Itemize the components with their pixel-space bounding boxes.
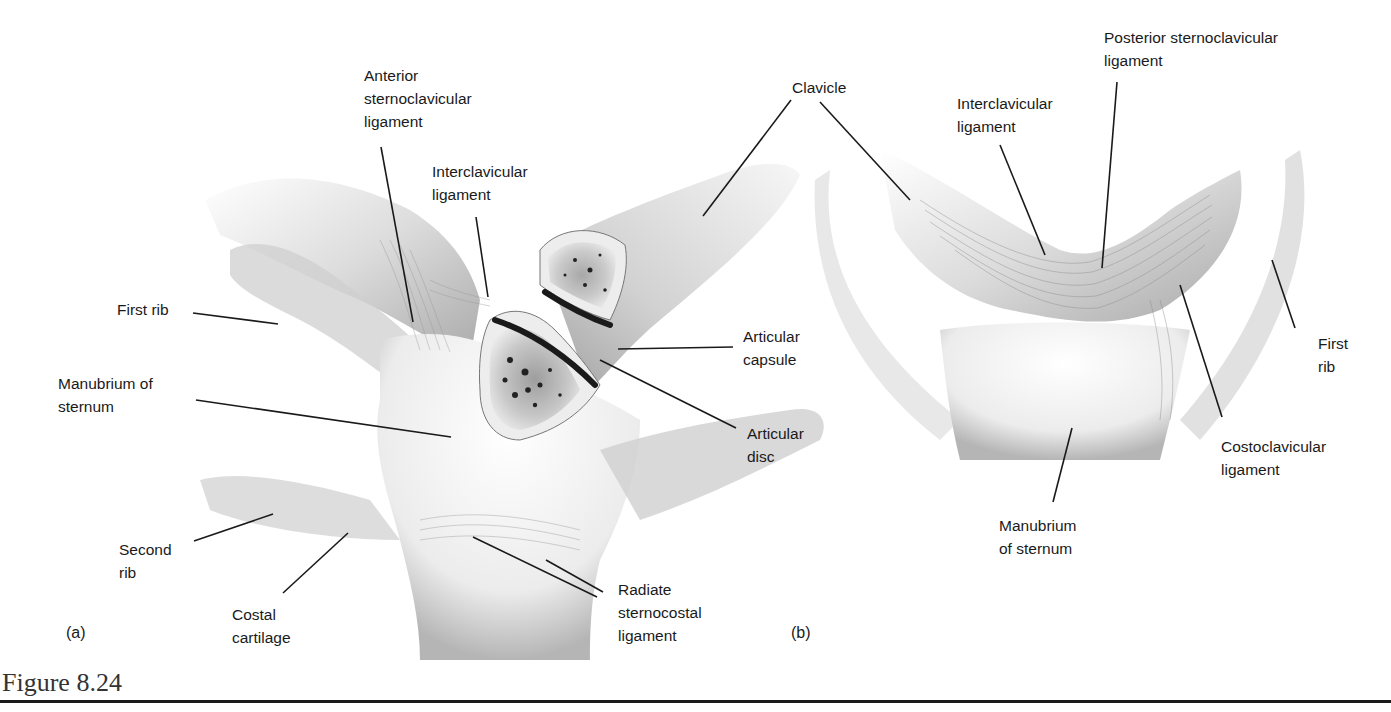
- leader-first-rib-a: [193, 313, 278, 324]
- leader-interclavicular-a: [476, 217, 488, 297]
- label-first-rib-b: First rib: [1318, 332, 1348, 378]
- manubrium-shape-b: [940, 323, 1190, 461]
- label-manubrium-of-sternum-a: Manubrium of sternum: [58, 372, 153, 418]
- label-clavicle: Clavicle: [792, 76, 846, 99]
- figure-caption: Figure 8.24: [2, 668, 122, 698]
- clavicles-v-shape: [880, 150, 1242, 322]
- label-articular-disc: Articular disc: [747, 422, 804, 468]
- label-second-rib: Second rib: [119, 538, 172, 584]
- leader-costal-cartilage: [283, 533, 348, 593]
- label-costoclavicular-ligament: Costoclavicular ligament: [1221, 435, 1326, 481]
- label-interclavicular-ligament-b: Interclavicular ligament: [957, 92, 1053, 138]
- label-posterior-sternoclavicular-ligament: Posterior sternoclavicular ligament: [1104, 26, 1278, 72]
- label-manubrium-of-sternum-b: Manubrium of sternum: [999, 514, 1077, 560]
- label-articular-capsule: Articular capsule: [743, 325, 800, 371]
- panel-letter-a: (a): [66, 624, 86, 642]
- label-interclavicular-ligament-a: Interclavicular ligament: [432, 160, 528, 206]
- panel-letter-b: (b): [791, 624, 811, 642]
- label-first-rib-a: First rib: [117, 298, 169, 321]
- leader-clavicle-b: [820, 102, 910, 200]
- leader-articular-capsule: [618, 347, 733, 349]
- label-costal-cartilage: Costal cartilage: [232, 603, 291, 649]
- caption-rule: [0, 700, 1391, 703]
- leader-posterior-sternoclavicular: [1102, 82, 1117, 268]
- panel-b-artwork: [815, 150, 1305, 460]
- figure-8-24: Anterior sternoclavicular ligament Inter…: [0, 0, 1391, 712]
- left-second-rib-shape: [200, 476, 400, 540]
- label-anterior-sternoclavicular-ligament: Anterior sternoclavicular ligament: [364, 64, 472, 133]
- label-radiate-sternocostal-ligament: Radiate sternocostal ligament: [618, 578, 702, 647]
- panel-a-artwork: [200, 164, 824, 660]
